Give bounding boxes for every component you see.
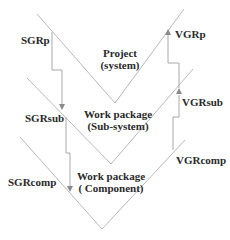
arrow-down-icon (59, 104, 65, 110)
level-subtitle: (system) (85, 59, 155, 71)
level-title: Work package (76, 108, 160, 120)
level-title: Work package (69, 170, 153, 182)
level-subtitle: (Sub-system) (76, 120, 160, 132)
level-project: Project (system) (85, 47, 155, 71)
vgrsub-connector (173, 95, 179, 150)
label-vgrcomp: VGRcomp (176, 154, 226, 166)
label-sgrsub: SGRsub (25, 112, 64, 124)
level-title: Project (85, 47, 155, 59)
label-vgrsub: VGRsub (182, 96, 223, 108)
level-subsystem: Work package (Sub-system) (76, 108, 160, 132)
label-sgrcomp: SGRcomp (8, 176, 56, 188)
arrow-up-icon (176, 88, 182, 94)
vgrp-connector (168, 34, 179, 88)
sgrp-connector (52, 32, 62, 104)
label-vgrp: VGRp (175, 28, 206, 40)
level-component: Work package ( Component) (69, 170, 153, 194)
label-sgrp: SGRp (21, 34, 50, 46)
arrow-up-icon (165, 29, 171, 35)
level-subtitle: ( Component) (69, 182, 153, 194)
